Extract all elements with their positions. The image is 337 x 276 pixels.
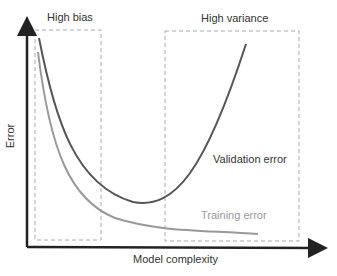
high-bias-label: High bias — [47, 11, 93, 23]
validation-error-label: Validation error — [213, 153, 287, 165]
high-variance-label: High variance — [201, 12, 268, 24]
diagram-canvas — [0, 0, 337, 276]
y-axis-label: Error — [4, 124, 16, 148]
x-axis-label: Model complexity — [133, 253, 218, 265]
training-error-curve — [38, 52, 258, 234]
x-axis — [27, 247, 318, 248]
training-error-label: Training error — [201, 209, 267, 221]
